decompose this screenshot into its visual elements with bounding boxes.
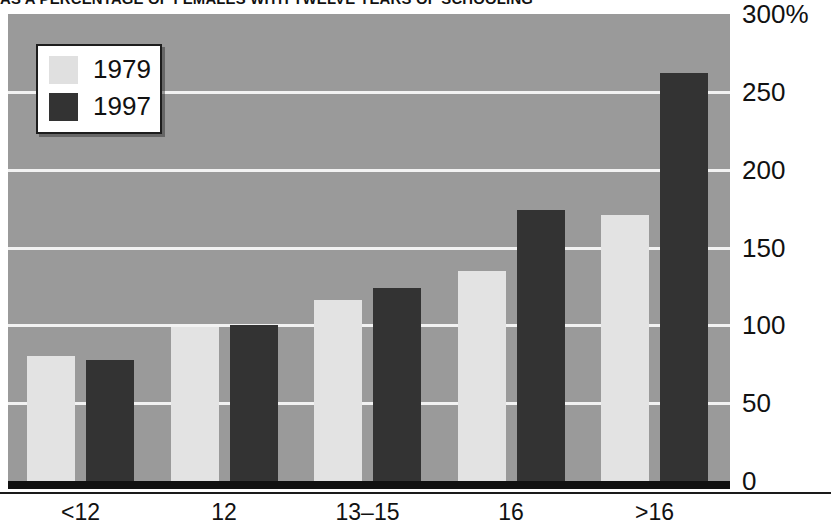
chart-legend: 1979 1997 <box>36 44 162 134</box>
bar-1979-16 <box>458 271 506 481</box>
x-axis-tick->16: >16 <box>635 497 674 527</box>
bar-1997->16 <box>660 73 708 481</box>
gridline-200 <box>8 169 730 172</box>
legend-label-1979: 1979 <box>93 53 151 85</box>
y-axis-tick-0: 0 <box>742 468 756 494</box>
page-title: AS A PERCENTAGE OF FEMALES WITH TWELVE Y… <box>0 0 730 9</box>
y-axis-tick-50: 50 <box>742 390 771 416</box>
y-axis-tick-200: 200 <box>742 157 785 183</box>
bar-1979-12 <box>171 327 219 481</box>
axis-rule-divider <box>0 492 831 494</box>
x-axis-tick-12: 12 <box>211 497 237 527</box>
y-axis-tick-100: 100 <box>742 312 785 338</box>
bar-1997-13–15 <box>373 288 421 481</box>
bar-1997-<12 <box>86 360 134 481</box>
y-axis-tick-300: 300% <box>742 1 809 27</box>
bar-1997-12 <box>230 325 278 481</box>
x-axis: <121213–1516>16 <box>8 497 730 531</box>
bar-1979->16 <box>601 215 649 481</box>
x-axis-baseline <box>8 481 730 489</box>
bar-1979-<12 <box>27 356 75 481</box>
y-axis: 050100150200250300% <box>742 0 831 531</box>
legend-label-1997: 1997 <box>93 90 151 122</box>
legend-item-1979[interactable]: 1979 <box>49 55 153 85</box>
bar-1997-16 <box>517 210 565 481</box>
bar-1979-13–15 <box>314 300 362 481</box>
x-axis-tick-13–15: 13–15 <box>336 497 400 527</box>
y-axis-tick-250: 250 <box>742 79 785 105</box>
x-axis-tick-<12: <12 <box>61 497 100 527</box>
legend-swatch-icon-1997 <box>49 93 78 121</box>
legend-swatch-icon-1979 <box>49 56 78 84</box>
x-axis-tick-16: 16 <box>498 497 524 527</box>
y-axis-tick-150: 150 <box>742 235 785 261</box>
legend-item-1997[interactable]: 1997 <box>49 92 153 122</box>
